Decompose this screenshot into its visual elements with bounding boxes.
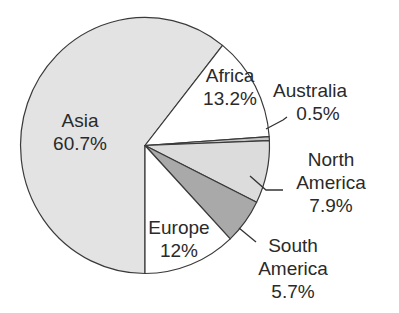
label-south-america: South America 5.7%: [248, 234, 338, 303]
label-north-america-value: 7.9%: [284, 194, 378, 217]
label-australia-name: Australia: [262, 79, 358, 102]
label-south-america-name-2: America: [248, 257, 338, 280]
label-europe-name: Europe: [143, 216, 215, 239]
label-australia-value: 0.5%: [278, 102, 358, 125]
label-asia-name: Asia: [45, 109, 115, 132]
label-europe-value: 12%: [143, 239, 215, 262]
label-south-america-name-1: South: [248, 234, 338, 257]
label-south-america-value: 5.7%: [248, 280, 338, 303]
label-asia: Asia 60.7%: [45, 109, 115, 155]
label-australia: Australia 0.5%: [262, 79, 358, 125]
label-north-america-name-2: America: [284, 171, 378, 194]
label-asia-value: 60.7%: [45, 132, 115, 155]
label-north-america-name-1: North: [284, 148, 378, 171]
label-europe: Europe 12%: [143, 216, 215, 262]
label-north-america: North America 7.9%: [284, 148, 378, 217]
